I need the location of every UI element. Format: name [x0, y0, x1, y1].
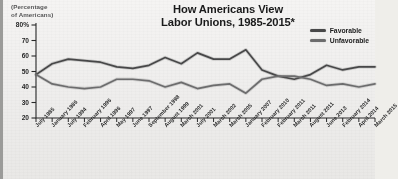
y-tick-label: 40: [3, 83, 29, 90]
y-tick-label: 70: [3, 37, 29, 44]
plot-area: 80%706050403020July 1985January 1986July…: [3, 0, 378, 179]
series-line-unfavorable: [36, 75, 375, 94]
y-tick-label: 60: [3, 52, 29, 59]
y-tick-label: 20: [3, 114, 29, 121]
y-tick-label: 30: [3, 99, 29, 106]
series-halo-favorable: [36, 50, 375, 79]
y-tick-label: 50: [3, 68, 29, 75]
plot-svg: [3, 0, 378, 179]
y-tick-label: 80%: [3, 21, 29, 28]
